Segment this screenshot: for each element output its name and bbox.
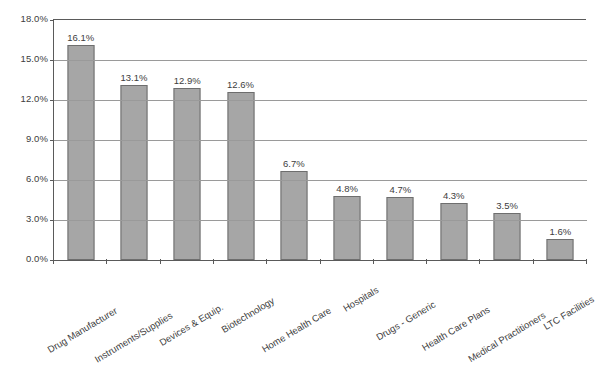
bar[interactable] bbox=[440, 203, 467, 260]
x-tick-mark bbox=[160, 259, 161, 264]
y-tick-mark bbox=[50, 100, 54, 101]
y-axis-tick-label: 18.0% bbox=[4, 14, 48, 24]
y-tick-mark bbox=[50, 180, 54, 181]
bar[interactable] bbox=[120, 85, 147, 260]
y-tick-mark bbox=[50, 60, 54, 61]
bar-value-label: 12.9% bbox=[174, 75, 201, 86]
x-tick-mark bbox=[266, 259, 267, 264]
x-tick-mark bbox=[479, 259, 480, 264]
bar[interactable] bbox=[547, 239, 574, 260]
plot-area: 16.1%13.1%12.9%12.6%6.7%4.8%4.7%4.3%3.5%… bbox=[53, 19, 586, 259]
gridline bbox=[54, 140, 587, 141]
bar-value-label: 3.5% bbox=[496, 200, 518, 211]
y-axis-tick-label: 0.0% bbox=[4, 254, 48, 264]
gridline bbox=[54, 180, 587, 181]
x-tick-mark bbox=[426, 259, 427, 264]
gridline bbox=[54, 260, 587, 261]
bar-value-label: 13.1% bbox=[120, 72, 147, 83]
x-axis-tick-label: Home Health Care bbox=[259, 305, 332, 355]
bar-value-label: 12.6% bbox=[227, 79, 254, 90]
x-tick-mark bbox=[586, 259, 587, 264]
y-axis-tick-label: 6.0% bbox=[4, 174, 48, 184]
y-axis-tick-label: 3.0% bbox=[4, 214, 48, 224]
bar-value-label: 16.1% bbox=[67, 32, 94, 43]
gridline bbox=[54, 100, 587, 101]
y-axis-tick-label: 15.0% bbox=[4, 54, 48, 64]
bar-value-label: 4.3% bbox=[443, 190, 465, 201]
bar[interactable] bbox=[174, 88, 201, 260]
bar-value-label: 4.8% bbox=[336, 183, 358, 194]
x-tick-mark bbox=[373, 259, 374, 264]
x-axis-tick-label-wrap: Drugs - Generic bbox=[432, 264, 495, 308]
y-tick-mark bbox=[50, 220, 54, 221]
x-tick-mark bbox=[533, 259, 534, 264]
x-tick-mark bbox=[106, 259, 107, 264]
x-axis-tick-label: Drugs - Generic bbox=[374, 299, 437, 343]
y-tick-mark bbox=[50, 140, 54, 141]
bar[interactable] bbox=[387, 197, 414, 260]
x-tick-mark bbox=[213, 259, 214, 264]
bar[interactable] bbox=[227, 92, 254, 260]
bar[interactable] bbox=[280, 171, 307, 260]
bar[interactable] bbox=[67, 45, 94, 260]
x-tick-mark bbox=[53, 259, 54, 264]
gridline bbox=[54, 220, 587, 221]
bar[interactable] bbox=[334, 196, 361, 260]
bar-value-label: 6.7% bbox=[283, 158, 305, 169]
y-axis-tick-label: 12.0% bbox=[4, 94, 48, 104]
x-tick-mark bbox=[320, 259, 321, 264]
y-tick-mark bbox=[50, 20, 54, 21]
gridline bbox=[54, 60, 587, 61]
bar-value-label: 1.6% bbox=[550, 226, 572, 237]
bar-value-label: 4.7% bbox=[390, 184, 412, 195]
y-axis-tick-label: 9.0% bbox=[4, 134, 48, 144]
x-axis-tick-label-wrap: Home Health Care bbox=[327, 264, 400, 314]
